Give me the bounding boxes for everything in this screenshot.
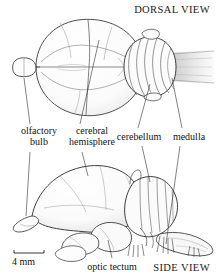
label-cerebellum: cerebellum <box>110 132 168 143</box>
side-cerebral-hemisphere <box>32 166 141 233</box>
side-view-title: SIDE VIEW <box>153 262 210 273</box>
dorsal-olfactory-bulb <box>13 58 40 77</box>
leader-olfactory-dorsal <box>24 78 30 124</box>
label-medulla: medulla <box>166 132 212 143</box>
figure-canvas: DORSAL VIEW SIDE VIEW olfactory bulb cer… <box>0 0 216 280</box>
dorsal-view-group <box>13 19 214 115</box>
scale-bar-label: 4 mm <box>12 256 35 267</box>
label-medulla-line1: medulla <box>166 132 212 143</box>
leader-medulla-dorsal <box>172 78 182 128</box>
label-cerebellum-line1: cerebellum <box>110 132 168 143</box>
side-olfactory-bulb <box>13 216 38 232</box>
leader-olfactory-side <box>26 152 30 216</box>
side-view-group <box>13 166 213 262</box>
label-optic-tectum: optic tectum <box>76 262 148 273</box>
scale-bar <box>14 250 44 253</box>
dorsal-view-title: DORSAL VIEW <box>134 4 210 15</box>
label-optic-tectum-line1: optic tectum <box>76 262 148 273</box>
side-ventral-structure <box>55 233 99 262</box>
